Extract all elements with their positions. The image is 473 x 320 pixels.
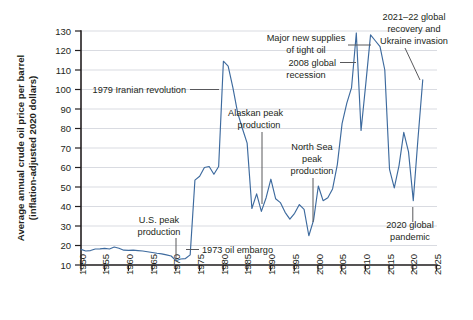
annotation-alaskan-peak-production-label-line2: production [238,120,281,130]
oil-price-series-line [81,33,423,261]
y-axis: 130 120 110 100 90 80 70 60 50 40 30 20 … [55,26,81,271]
annotation-global-pandemic-2020-label-line2: pandemic [390,232,430,242]
y-tick-label-10: 10 [60,260,71,271]
annotation-recovery-ukraine-invasion-label-line2: recovery and [387,24,440,34]
annotation-alaskan-peak-production-label-line1: Alaskan peak [228,108,284,118]
x-tick-label-1985: 1985 [242,254,253,275]
x-tick-label-2025: 2025 [432,254,443,275]
annotation-tight-oil-supplies-label-line1: Major new supplies [267,33,346,43]
x-tick-label-2020: 2020 [408,254,419,275]
x-tick-label-1965: 1965 [148,254,159,275]
y-tick-label-110: 110 [56,65,71,76]
x-axis: 1950 1955 1960 1965 1970 1975 1980 1985 … [77,254,444,275]
annotation-north-sea-peak-production-label-line1: North Sea [291,142,333,152]
x-tick-label-1980: 1980 [219,254,230,275]
annotation-alaskan-peak-production: Alaskan peak production [228,108,284,204]
y-tick-label-130: 130 [55,26,71,37]
oil-price-line-chart: 130 120 110 100 90 80 70 60 50 40 30 20 … [0,0,473,320]
annotation-oil-embargo-label: 1973 oil embargo [202,245,273,255]
y-tick-label-60: 60 [60,162,71,173]
y-axis-title-line1: Average annual crude oil price per barre… [15,55,26,241]
y-tick-label-20: 20 [60,240,71,251]
annotation-oil-embargo: 1973 oil embargo [186,245,273,255]
annotation-global-pandemic-2020-label-line1: 2020 global [386,220,434,230]
x-tick-label-1990: 1990 [266,254,277,275]
y-axis-title: Average annual crude oil price per barre… [15,55,38,241]
annotation-iranian-revolution: 1979 Iranian revolution [93,85,219,95]
annotation-global-recession-2008-label-line1: 2008 global [288,58,336,68]
y-tick-label-50: 50 [60,182,71,193]
x-tick-label-2000: 2000 [314,254,325,275]
annotation-global-pandemic-2020: 2020 global pandemic [386,207,434,242]
y-axis-title-line2: (inflation-adjusted 2020 dollars) [27,76,38,220]
annotation-recovery-ukraine-invasion-label-line1: 2021–22 global [383,12,446,22]
x-tick-label-2010: 2010 [361,254,372,275]
y-tick-label-80: 80 [60,123,71,134]
annotation-tight-oil-supplies-label-line2: of tight oil [286,45,325,55]
x-tick-label-2005: 2005 [337,254,348,275]
y-tick-label-90: 90 [60,104,71,115]
annotation-north-sea-peak-production-label-line2: peak [302,154,322,164]
y-tick-label-120: 120 [55,45,71,56]
x-tick-label-1975: 1975 [195,254,206,275]
y-tick-label-100: 100 [55,84,71,95]
x-tick-label-1995: 1995 [290,254,301,275]
y-tick-label-40: 40 [60,201,71,212]
annotation-recovery-ukraine-invasion-label-line3: Ukraine invasion [380,36,448,46]
annotation-north-sea-peak-production-label-line3: production [291,166,334,176]
chart-screenshot: 130 120 110 100 90 80 70 60 50 40 30 20 … [0,0,473,320]
x-tick-label-1950: 1950 [77,254,88,275]
x-tick-label-2015: 2015 [385,254,396,275]
x-tick-label-1960: 1960 [124,254,135,275]
x-tick-label-1955: 1955 [100,254,111,275]
annotation-global-recession-2008-label-line2: recession [286,70,325,80]
y-tick-label-70: 70 [60,143,71,154]
data-series [81,33,423,261]
annotation-us-peak-production-label-line1: U.S. peak [139,215,180,225]
annotation-global-recession-2008: 2008 global recession [286,58,356,80]
annotation-recovery-ukraine-invasion-leader [405,48,420,80]
annotation-iranian-revolution-label: 1979 Iranian revolution [93,85,186,95]
y-tick-label-30: 30 [60,221,71,232]
annotation-us-peak-production-label-line2: production [138,227,181,237]
